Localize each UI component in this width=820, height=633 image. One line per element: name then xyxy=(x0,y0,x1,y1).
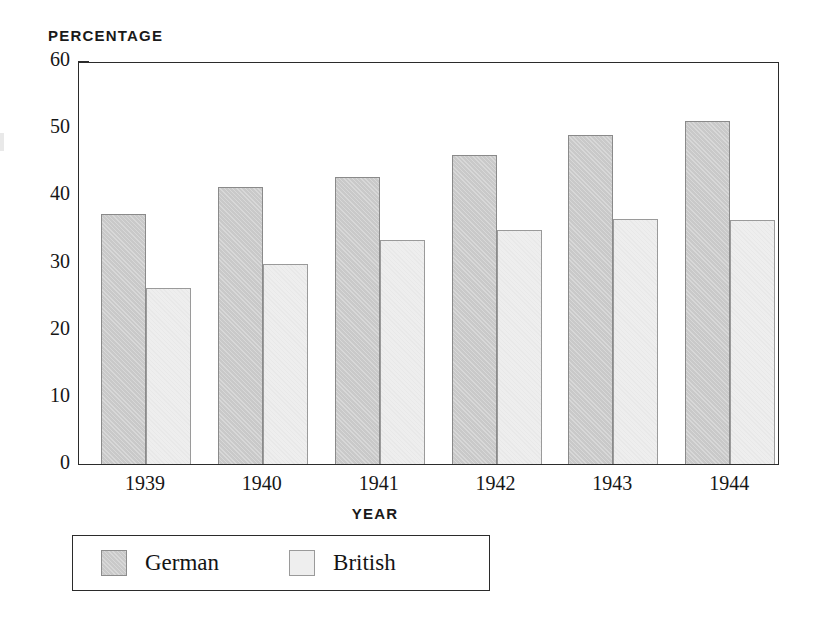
legend-swatch-british xyxy=(289,550,315,576)
legend-item-german: German xyxy=(101,550,219,576)
x-tick-label-1941: 1941 xyxy=(320,472,438,495)
y-tick-label-text: 20 xyxy=(14,317,70,340)
bar-chart-figure: Percentage 0102030405060 193919401941194… xyxy=(0,0,820,633)
bar-german-1939 xyxy=(101,214,146,464)
bars-container xyxy=(79,63,778,464)
bar-british-1941 xyxy=(380,240,425,464)
legend-label-british: British xyxy=(333,550,396,576)
bar-british-1939 xyxy=(146,288,191,464)
plot-area xyxy=(78,62,779,465)
x-tick-label-1940: 1940 xyxy=(203,472,321,495)
x-tick-label-1943: 1943 xyxy=(553,472,671,495)
bar-german-1944 xyxy=(685,121,730,464)
x-tick-label-1942: 1942 xyxy=(437,472,555,495)
bar-german-1941 xyxy=(335,177,380,464)
x-tick-label-1939: 1939 xyxy=(86,472,204,495)
bar-german-1940 xyxy=(218,187,263,464)
y-tick-label-text: 10 xyxy=(14,384,70,407)
bar-german-1943 xyxy=(568,135,613,464)
legend: GermanBritish xyxy=(72,535,490,591)
bar-british-1944 xyxy=(730,220,775,464)
y-tick-label-text: 0 xyxy=(14,451,70,474)
bar-german-1942 xyxy=(452,155,497,464)
y-tick-label-text: 50 xyxy=(14,115,70,138)
bar-british-1940 xyxy=(263,264,308,464)
y-tick-label-text: 60 xyxy=(14,48,70,71)
y-tick-label-text: 40 xyxy=(14,182,70,205)
legend-swatch-german xyxy=(101,550,127,576)
x-axis-title: Year xyxy=(0,500,820,524)
x-tick-label-1944: 1944 xyxy=(670,472,788,495)
y-tick-label-text: 30 xyxy=(14,250,70,273)
legend-item-british: British xyxy=(289,550,396,576)
bar-british-1942 xyxy=(497,230,542,464)
legend-label-german: German xyxy=(145,550,219,576)
bar-british-1943 xyxy=(613,219,658,464)
